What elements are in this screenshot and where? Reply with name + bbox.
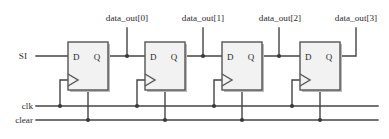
ff2-q-pin-label: Q — [248, 52, 255, 62]
ff0-q-pin-label: Q — [94, 52, 101, 62]
ff2-clk-wire — [214, 80, 222, 106]
shift-register-diagram: D Q D Q D Q D — [0, 0, 389, 139]
ff3-q-pin-label: Q — [326, 52, 333, 62]
ff1-clk-junction-dot — [135, 104, 139, 108]
data-out-1-label: data_out[1] — [182, 13, 224, 23]
ff3-clear-junction-dot — [318, 118, 322, 122]
data-out-0-label: data_out[0] — [106, 13, 148, 23]
ff2-d-pin-label: D — [227, 52, 234, 62]
data-out-2-label: data_out[2] — [259, 13, 301, 23]
ff1-clk-wire — [137, 80, 145, 106]
ff0-clear-junction-dot — [86, 118, 90, 122]
ff3-clk-wire — [292, 80, 300, 106]
clear-input-label: clear — [15, 115, 33, 125]
ff0-clk-wire — [60, 80, 68, 106]
ff1-q-pin-label: Q — [171, 52, 178, 62]
ff3-clk-junction-dot — [290, 104, 294, 108]
si-input-label: SI — [19, 51, 27, 61]
data-out-0-junction-dot — [125, 54, 129, 58]
ff2-clear-junction-dot — [240, 118, 244, 122]
data-out-1-junction-dot — [201, 54, 205, 58]
ff2-clk-junction-dot — [212, 104, 216, 108]
ff0-clk-junction-dot — [58, 104, 62, 108]
data-out-3-tap-wire — [340, 28, 356, 56]
ff1-clear-junction-dot — [163, 118, 167, 122]
ff1-d-pin-label: D — [150, 52, 157, 62]
ff0-d-pin-label: D — [73, 52, 80, 62]
clk-input-label: clk — [22, 101, 34, 111]
ff3-d-pin-label: D — [305, 52, 312, 62]
circuit-canvas: D Q D Q D Q D — [0, 0, 389, 139]
data-out-2-junction-dot — [277, 54, 281, 58]
data-out-3-label: data_out[3] — [335, 13, 377, 23]
